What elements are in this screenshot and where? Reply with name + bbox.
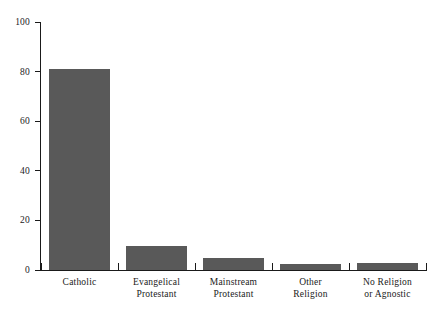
x-tick-label-line2: Protestant (118, 289, 195, 301)
y-tick-label: 80 (20, 67, 30, 77)
y-tick-mark (35, 71, 41, 72)
x-tick-label-line2: or Agnostic (349, 289, 426, 301)
x-tick-label-line1: Catholic (63, 277, 97, 287)
x-tick-mark (349, 263, 350, 270)
x-tick-mark (41, 263, 42, 270)
x-tick-label-line1: Evangelical (133, 277, 180, 287)
bar-5 (357, 263, 419, 270)
bar-1 (49, 69, 111, 270)
x-tick-label-line1: No Religion (363, 277, 412, 287)
x-tick-mark-end (426, 263, 427, 270)
bar-4 (280, 264, 342, 270)
x-tick-label-line2: Protestant (195, 289, 272, 301)
x-tick-mark (118, 263, 119, 270)
x-tick-label-line2: Religion (272, 289, 349, 301)
y-tick-label: 40 (20, 166, 30, 176)
y-tick-label: 100 (15, 17, 30, 27)
x-tick-label: No Religionor Agnostic (349, 277, 426, 300)
y-tick-mark (35, 220, 41, 221)
x-axis-line (41, 270, 427, 271)
y-axis-line (40, 22, 41, 271)
y-tick-label: 0 (25, 265, 30, 275)
x-tick-label: OtherReligion (272, 277, 349, 300)
y-tick-label: 20 (20, 215, 30, 225)
y-tick-mark (35, 121, 41, 122)
x-tick-mark (272, 263, 273, 270)
x-tick-label-line1: Mainstream (210, 277, 257, 287)
x-tick-mark (195, 263, 196, 270)
x-tick-label-line1: Other (299, 277, 322, 287)
x-tick-label: MainstreamProtestant (195, 277, 272, 300)
x-tick-label: EvangelicalProtestant (118, 277, 195, 300)
bar-3 (203, 258, 265, 270)
bar-2 (126, 246, 188, 270)
y-tick-mark (35, 170, 41, 171)
x-tick-label: Catholic (41, 277, 118, 289)
y-tick-mark (35, 22, 41, 23)
bar-chart: 020406080100 CatholicEvangelicalProtesta… (0, 0, 438, 315)
y-tick-label: 60 (20, 116, 30, 126)
